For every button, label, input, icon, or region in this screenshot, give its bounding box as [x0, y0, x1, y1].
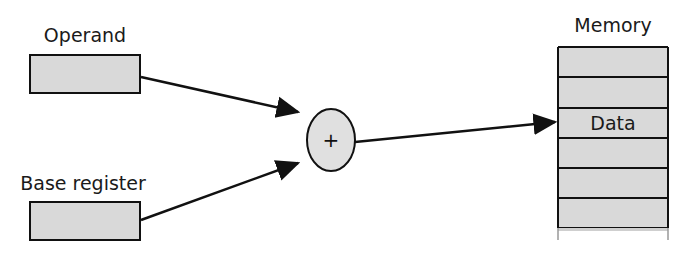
base-register-label: Base register: [20, 172, 146, 194]
base-register-arrow: [141, 163, 298, 220]
operand-box: [30, 55, 140, 93]
operand-label: Operand: [44, 24, 126, 46]
memory-data-cell-label: Data: [590, 112, 635, 134]
plus-icon: +: [323, 128, 340, 152]
base-register-addressing-diagram: Operand Base register + Memory Data: [0, 0, 689, 257]
base-register-box: [30, 202, 140, 240]
effective-address-arrow: [355, 122, 555, 142]
memory-group: Memory Data: [558, 14, 668, 240]
adder: +: [307, 109, 355, 171]
operand-group: Operand: [30, 24, 140, 93]
operand-arrow: [141, 77, 298, 112]
memory-label: Memory: [574, 14, 651, 36]
base-register-group: Base register: [20, 172, 146, 240]
